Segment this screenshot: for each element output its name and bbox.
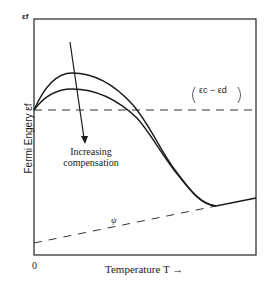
- fermi-level-diagram: [0, 0, 271, 285]
- ec-ed-text: εc − εd: [199, 85, 227, 95]
- plot-frame: [34, 19, 256, 255]
- ec-ed-label: εc − εd: [193, 85, 227, 95]
- compensation-annotation: Increasing compensation: [60, 146, 122, 168]
- psi-label: ψ: [111, 215, 117, 225]
- y-axis-label: Fermi Engery εf: [23, 89, 34, 189]
- annotation-line-1: Increasing: [60, 146, 122, 157]
- origin-label: 0: [32, 260, 37, 271]
- y-axis-symbol: εf: [22, 12, 28, 21]
- psi-dashed-line: [34, 206, 216, 243]
- annotation-line-2: compensation: [60, 157, 122, 168]
- arrow-head-icon: [81, 136, 88, 144]
- paren-right: [238, 87, 241, 103]
- x-axis-label: Temperature T →: [105, 263, 183, 275]
